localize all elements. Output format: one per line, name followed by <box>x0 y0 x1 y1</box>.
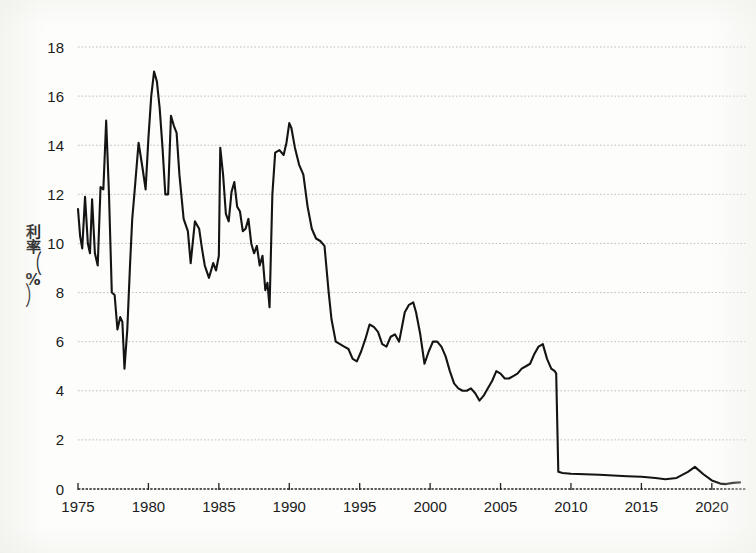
x-tick-label: 2015 <box>625 498 658 515</box>
y-tick-label: 2 <box>56 431 64 448</box>
x-tick-label: 1980 <box>132 498 165 515</box>
x-tick-label: 2010 <box>554 498 587 515</box>
y-tick-label: 16 <box>47 88 64 105</box>
chart-page: 利 率 （ % ） 024681012141618 19751980198519… <box>0 0 756 553</box>
y-tick-label: 4 <box>56 382 64 399</box>
y-tick-label: 10 <box>47 235 64 252</box>
y-tick-label: 8 <box>56 284 64 301</box>
x-axis-group <box>78 483 746 490</box>
x-tick-label: 2000 <box>413 498 446 515</box>
line-chart: 024681012141618 197519801985199019952000… <box>0 0 756 553</box>
data-series-line <box>78 72 740 485</box>
x-tick-label: 1985 <box>202 498 235 515</box>
y-axis-title-paren-close: ） <box>18 284 48 310</box>
y-axis-title: 利 率 （ % ） <box>18 225 48 306</box>
x-tick-label: 2020 <box>695 498 728 515</box>
y-tick-label: 14 <box>47 137 64 154</box>
y-tick-label-group: 024681012141618 <box>47 39 64 498</box>
x-tick-label: 2005 <box>484 498 517 515</box>
y-axis-title-paren-open: （ <box>18 251 48 277</box>
y-tick-label: 0 <box>56 481 64 498</box>
y-tick-label: 12 <box>47 186 64 203</box>
x-tick-label: 1975 <box>61 498 94 515</box>
gridline-group <box>78 47 746 440</box>
x-tick-label-group: 1975198019851990199520002005201020152020 <box>61 498 728 515</box>
y-tick-label: 6 <box>56 333 64 350</box>
x-tick-label: 1990 <box>273 498 306 515</box>
y-tick-label: 18 <box>47 39 64 56</box>
x-tick-label: 1995 <box>343 498 376 515</box>
